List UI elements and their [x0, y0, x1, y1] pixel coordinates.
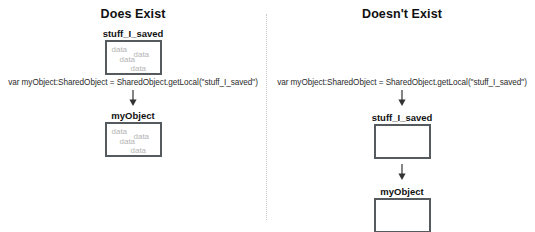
diagram-canvas: Does Exist stuff_I_saved data data data …: [0, 0, 535, 232]
column-doesnt-exist: Doesn't Exist var myObject:SharedObject …: [269, 0, 535, 232]
column-title-doesnt-exist: Doesn't Exist: [269, 7, 535, 21]
data-token: data: [134, 132, 150, 141]
data-token: data: [112, 127, 128, 136]
box-myobject-empty: [374, 198, 431, 232]
arrow-down-icon: [397, 90, 408, 107]
box-stuff-i-saved-created: [374, 124, 431, 159]
box-myobject-result: data data data data: [105, 122, 162, 157]
node-label-myobject: myObject: [0, 110, 266, 121]
node-myobject-result: myObject data data data data: [0, 110, 266, 157]
data-token: data: [134, 50, 150, 59]
node-label-myobject: myObject: [269, 186, 535, 197]
node-stuff-i-saved-created: stuff_I_saved: [269, 112, 535, 159]
node-label-stuff-i-saved: stuff_I_saved: [269, 112, 535, 123]
arrow-down-icon: [397, 164, 408, 181]
box-stuff-i-saved-source: data data data data: [105, 40, 162, 75]
data-token: data: [131, 146, 147, 155]
column-does-exist: Does Exist stuff_I_saved data data data …: [0, 0, 266, 232]
column-title-does-exist: Does Exist: [0, 7, 266, 21]
node-stuff-i-saved-source: stuff_I_saved data data data data: [0, 28, 266, 75]
data-token: data: [120, 55, 136, 64]
column-divider: [266, 14, 267, 220]
data-token: data: [120, 137, 136, 146]
code-line-doesnt-exist: var myObject:SharedObject = SharedObject…: [269, 78, 535, 87]
data-token: data: [112, 45, 128, 54]
code-line-does-exist: var myObject:SharedObject = SharedObject…: [0, 78, 266, 87]
data-token: data: [131, 64, 147, 73]
arrow-down-icon: [128, 90, 139, 107]
node-myobject-empty: myObject: [269, 186, 535, 232]
node-label-stuff-i-saved: stuff_I_saved: [0, 28, 266, 39]
